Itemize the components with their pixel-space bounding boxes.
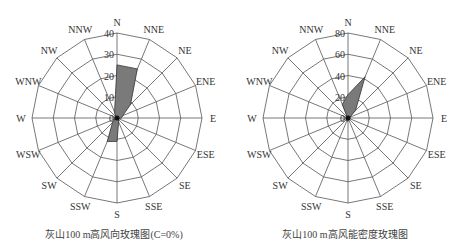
direction-label: NNW — [68, 24, 92, 35]
direction-label: E — [441, 113, 447, 124]
radial-tick-label: 0 — [340, 113, 345, 124]
direction-label: WNW — [246, 76, 273, 87]
direction-label: WSW — [247, 149, 272, 160]
direction-label: N — [113, 17, 120, 28]
radial-tick-label: 30 — [104, 49, 114, 60]
direction-label: SSW — [70, 201, 91, 212]
chart-caption: 灰山100 m高风向玫瑰图(C=0%) — [0, 226, 228, 241]
direction-label: WNW — [15, 76, 42, 87]
direction-label: SE — [179, 180, 191, 191]
direction-label: SW — [273, 180, 289, 191]
direction-label: SW — [42, 180, 58, 191]
direction-label: N — [344, 17, 351, 28]
direction-label: NNE — [143, 24, 164, 35]
direction-label: SSE — [145, 201, 162, 212]
radial-tick-label: 10 — [104, 92, 114, 103]
direction-label: S — [114, 209, 120, 220]
direction-label: SE — [410, 180, 422, 191]
direction-label: SSW — [301, 201, 322, 212]
wind-direction-rose-plot: 010203040NNNENEENEEESESESSESSSWSWWSWWWNW… — [0, 0, 228, 247]
direction-label: NE — [178, 45, 191, 56]
direction-label: NNW — [299, 24, 323, 35]
direction-label: W — [247, 113, 257, 124]
radial-tick-label: 60 — [335, 49, 345, 60]
wind-direction-rose: 010203040NNNENEENEEESESESSESSSWSWWSWWWNW… — [0, 0, 228, 247]
chart-caption: 灰山100 m高风能密度玫瑰图 — [231, 226, 455, 241]
wind-energy-density-rose: 020406080NNNENEENEEESESESSESSSWSWWSWWWNW… — [231, 0, 455, 247]
direction-label: SSE — [376, 201, 393, 212]
direction-label: E — [210, 113, 216, 124]
radial-tick-label: 20 — [104, 71, 114, 82]
radial-tick-label: 0 — [109, 113, 114, 124]
direction-label: WSW — [16, 149, 41, 160]
radial-tick-label: 40 — [104, 28, 114, 39]
radial-tick-label: 80 — [335, 28, 345, 39]
direction-label: NW — [41, 45, 58, 56]
direction-label: W — [16, 113, 26, 124]
wind-energy-density-rose-plot: 020406080NNNENEENEEESESESSESSSWSWWSWWWNW… — [231, 0, 455, 247]
direction-label: NW — [272, 45, 289, 56]
direction-label: ENE — [427, 76, 446, 87]
direction-label: NNE — [374, 24, 395, 35]
direction-label: ENE — [196, 76, 215, 87]
direction-label: ESE — [428, 149, 446, 160]
data-polygon — [342, 77, 365, 121]
direction-label: NE — [409, 45, 422, 56]
radial-tick-label: 20 — [335, 92, 345, 103]
radial-tick-label: 40 — [335, 71, 345, 82]
direction-label: S — [345, 209, 351, 220]
direction-label: ESE — [197, 149, 215, 160]
